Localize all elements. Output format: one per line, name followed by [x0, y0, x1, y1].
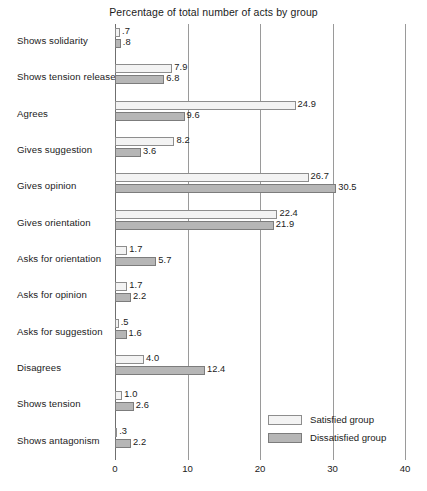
bar-dissatisfied: [115, 148, 141, 157]
bar-dissatisfied: [115, 112, 185, 121]
category-label: Agrees: [0, 108, 108, 119]
category-label: Shows tension release: [0, 71, 108, 82]
bar-value-satisfied: .7: [122, 26, 130, 36]
bar-value-satisfied: 1.7: [129, 244, 142, 254]
bar-value-satisfied: .5: [121, 317, 129, 327]
bar-value-satisfied: 1.7: [129, 280, 142, 290]
bar-value-dissatisfied: 9.6: [187, 110, 200, 120]
x-tick-label: 0: [112, 463, 117, 474]
category-row: Gives suggestion8.23.6: [0, 133, 427, 169]
bar-value-satisfied: 7.9: [174, 62, 187, 72]
bar-dissatisfied: [115, 330, 127, 339]
category-row: Asks for opinion1.72.2: [0, 278, 427, 314]
bar-dissatisfied: [115, 184, 336, 193]
bar-dissatisfied: [115, 439, 131, 448]
x-axis-line: [115, 460, 406, 461]
category-label: Asks for suggestion: [0, 326, 108, 337]
bar-dissatisfied: [115, 257, 156, 266]
bar-value-dissatisfied: 5.7: [158, 255, 171, 265]
category-row: Shows solidarity.7.8: [0, 24, 427, 60]
bar-dissatisfied: [115, 39, 121, 48]
bar-value-dissatisfied: 21.9: [276, 219, 295, 229]
category-row: Shows antagonism.32.2: [0, 424, 427, 460]
bar-value-satisfied: .3: [119, 426, 127, 436]
bar-satisfied: [115, 391, 122, 400]
bar-dissatisfied: [115, 75, 164, 84]
x-tick-label: 20: [255, 463, 266, 474]
bar-dissatisfied: [115, 293, 131, 302]
category-label: Gives opinion: [0, 180, 108, 191]
category-row: Agrees24.99.6: [0, 97, 427, 133]
bar-value-dissatisfied: 30.5: [338, 182, 357, 192]
x-tick-label: 10: [182, 463, 193, 474]
bar-value-dissatisfied: 1.6: [129, 328, 142, 338]
category-label: Gives suggestion: [0, 144, 108, 155]
bar-value-dissatisfied: 3.6: [143, 146, 156, 156]
category-row: Disagrees4.012.4: [0, 351, 427, 387]
bar-value-dissatisfied: .8: [123, 37, 131, 47]
category-label: Asks for orientation: [0, 253, 108, 264]
x-tick-label: 30: [327, 463, 338, 474]
category-label: Shows tension: [0, 398, 108, 409]
category-label: Gives orientation: [0, 217, 108, 228]
category-label: Disagrees: [0, 362, 108, 373]
bar-satisfied: [115, 137, 174, 146]
x-tick-label: 40: [400, 463, 411, 474]
bar-value-dissatisfied: 6.8: [166, 73, 179, 83]
bar-satisfied: [115, 355, 144, 364]
bar-satisfied: [115, 64, 172, 73]
category-label: Asks for opinion: [0, 289, 108, 300]
bar-value-satisfied: 1.0: [124, 389, 137, 399]
bar-satisfied: [115, 28, 120, 37]
category-row: Gives opinion26.730.5: [0, 169, 427, 205]
category-row: Asks for orientation1.75.7: [0, 242, 427, 278]
bar-value-satisfied: 24.9: [298, 99, 317, 109]
bar-satisfied: [115, 101, 296, 110]
bar-dissatisfied: [115, 221, 274, 230]
category-row: Gives orientation22.421.9: [0, 206, 427, 242]
bar-value-satisfied: 22.4: [279, 208, 298, 218]
bar-dissatisfied: [115, 402, 134, 411]
bar-satisfied: [115, 282, 127, 291]
category-row: Asks for suggestion.51.6: [0, 315, 427, 351]
bar-value-satisfied: 4.0: [146, 353, 159, 363]
bar-satisfied: [115, 428, 117, 437]
bar-value-satisfied: 26.7: [311, 171, 330, 181]
bar-satisfied: [115, 246, 127, 255]
bar-value-dissatisfied: 12.4: [207, 364, 226, 374]
bar-chart: Percentage of total number of acts by gr…: [0, 0, 427, 491]
bar-value-satisfied: 8.2: [176, 135, 189, 145]
category-row: Shows tension1.02.6: [0, 387, 427, 423]
category-label: Shows solidarity: [0, 35, 108, 46]
bar-value-dissatisfied: 2.2: [133, 291, 146, 301]
category-label: Shows antagonism: [0, 435, 108, 446]
bar-satisfied: [115, 319, 119, 328]
bar-value-dissatisfied: 2.6: [136, 400, 149, 410]
category-row: Shows tension release7.96.8: [0, 60, 427, 96]
bar-satisfied: [115, 173, 309, 182]
bar-satisfied: [115, 210, 277, 219]
bar-dissatisfied: [115, 366, 205, 375]
bar-value-dissatisfied: 2.2: [133, 437, 146, 447]
chart-title: Percentage of total number of acts by gr…: [0, 6, 427, 18]
